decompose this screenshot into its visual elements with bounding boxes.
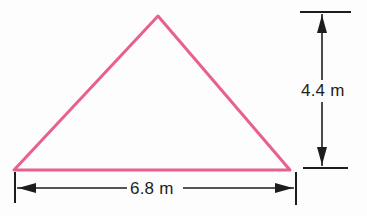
base-dimension-label: 6.8 m [127, 180, 177, 197]
height-arrowhead-top [317, 15, 327, 33]
base-arrowhead-left [18, 183, 36, 193]
triangle-shape [14, 16, 290, 170]
base-arrowhead-right [275, 183, 293, 193]
height-arrowhead-bottom [317, 147, 327, 165]
geometry-figure: 6.8 m 4.4 m [0, 0, 367, 216]
figure-canvas [0, 0, 367, 216]
height-dimension-label: 4.4 m [299, 82, 347, 99]
